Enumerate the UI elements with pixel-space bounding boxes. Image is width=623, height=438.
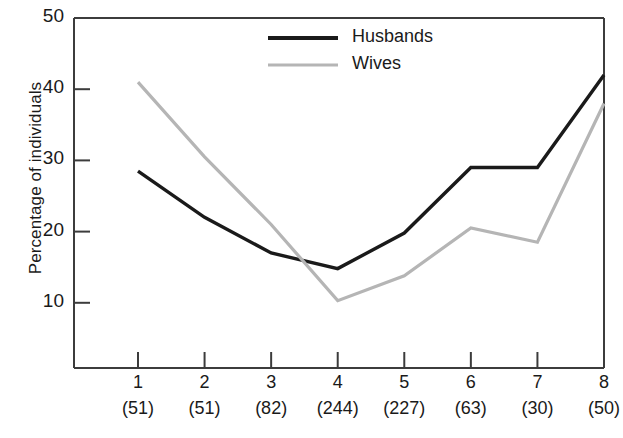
- y-tick-label: 50: [22, 5, 64, 27]
- x-tick-label: 1: [103, 372, 173, 393]
- x-tick-label: 5: [369, 372, 439, 393]
- y-tick-label: 30: [22, 147, 64, 169]
- x-tick-label: 4: [303, 372, 373, 393]
- x-tick-label: 8: [569, 372, 623, 393]
- y-tick-label: 20: [22, 219, 64, 241]
- axis-frame: [74, 18, 604, 368]
- y-tick-label: 10: [22, 290, 64, 312]
- x-tick-label: 6: [436, 372, 506, 393]
- legend-label-husbands: Husbands: [352, 26, 433, 47]
- series-lines: [138, 75, 604, 301]
- y-axis-ticks: [74, 89, 90, 303]
- x-tick-label: 3: [236, 372, 306, 393]
- y-tick-label: 40: [22, 76, 64, 98]
- chart-figure: Percentage of individuals 10 20 30 40 50…: [0, 0, 623, 438]
- x-tick-label: 7: [502, 372, 572, 393]
- legend-swatches: [268, 38, 338, 65]
- x-tick-count-label: (50): [564, 398, 623, 419]
- legend-label-wives: Wives: [352, 53, 401, 74]
- x-tick-label: 2: [170, 372, 240, 393]
- x-axis-ticks: [138, 352, 537, 368]
